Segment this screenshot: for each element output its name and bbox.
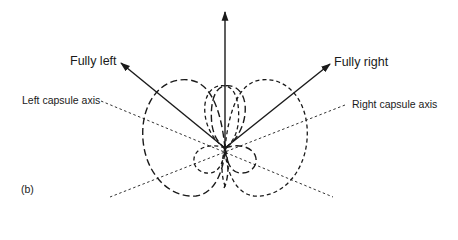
fully-left-arrow: [121, 63, 225, 148]
origin-point: [223, 146, 227, 150]
fully-right-label: Fully right: [334, 56, 388, 69]
panel-label: (b): [21, 184, 34, 195]
left-capsule-minor-lobe: [194, 146, 225, 173]
left-capsule-axis-line: [101, 101, 333, 197]
left-capsule-axis-label: Left capsule axis: [22, 95, 100, 106]
fully-right-arrow: [225, 64, 330, 148]
fully-left-label: Fully left: [70, 55, 117, 68]
right-capsule-axis-label: Right capsule axis: [352, 99, 437, 110]
right-capsule-minor-lobe: [225, 146, 256, 173]
left-capsule-rear-lobe: [205, 86, 239, 148]
right-capsule-rear-lobe: [211, 86, 245, 148]
